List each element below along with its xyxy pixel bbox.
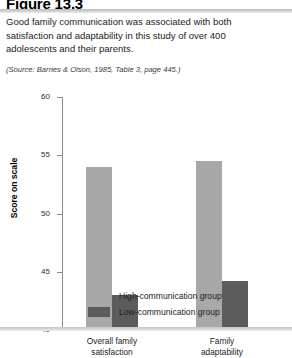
figure-source: (Source: Barnes & Olson, 1985, Table 3, …	[6, 65, 256, 74]
legend-swatch-high-icon	[88, 291, 110, 301]
y-axis-tick	[57, 272, 62, 273]
x-axis-category-line: adaptability	[170, 347, 274, 358]
legend-item-low: Low-communication group	[0, 304, 292, 320]
y-axis-tick	[57, 214, 62, 215]
x-axis-category-label: Familyadaptability	[170, 336, 274, 358]
x-axis-category-label: Overall familysatisfaction	[60, 336, 164, 358]
figure-caption: Good family communication was associated…	[6, 15, 254, 56]
legend-swatch-low-icon	[88, 307, 110, 317]
legend-label-high: High-communication group	[119, 291, 222, 301]
bar-chart: Score on scale 4045505560 Overall family…	[0, 88, 292, 253]
y-axis-tick-label: 55	[10, 150, 50, 159]
legend-label-low: Low-communication group	[119, 307, 220, 317]
x-axis-category-line: Family	[170, 336, 274, 347]
title-divider	[0, 9, 292, 13]
legend-item-high: High-communication group	[0, 288, 292, 304]
chart-legend: High-communication group Low-communicati…	[0, 288, 292, 320]
x-axis-category-line: Overall family	[60, 336, 164, 347]
y-axis-tick	[57, 155, 62, 156]
x-axis-category-line: satisfaction	[60, 347, 164, 358]
y-axis-tick	[57, 97, 62, 98]
y-axis-tick-label: 50	[10, 209, 50, 218]
y-axis-tick-label: 45	[10, 267, 50, 276]
bottom-divider	[0, 327, 292, 331]
y-axis-tick-label: 60	[10, 92, 50, 101]
